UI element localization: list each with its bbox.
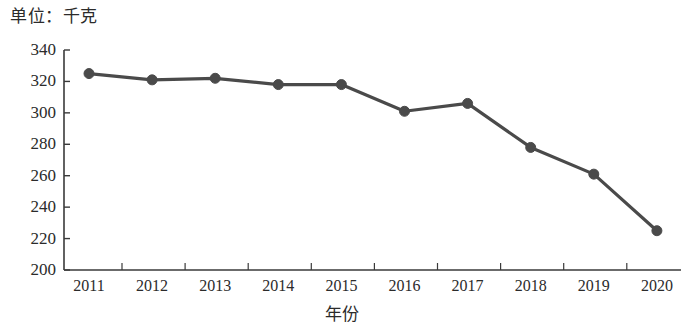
data-point-marker [147, 75, 157, 85]
line-chart: 单位：千克 200220240260280300320340 201120122… [0, 0, 683, 326]
x-tick-label: 2017 [452, 277, 484, 295]
data-series [84, 69, 662, 236]
data-point-marker [526, 142, 536, 152]
data-point-marker [400, 106, 410, 116]
x-tick-label: 2013 [199, 277, 231, 295]
data-point-marker [210, 73, 220, 83]
data-point-marker [273, 80, 283, 90]
x-tick-label: 2020 [641, 277, 673, 295]
x-tick-label: 2019 [578, 277, 610, 295]
x-tick-label: 2016 [389, 277, 421, 295]
x-tick-label: 2014 [262, 277, 294, 295]
x-tick-label: 2018 [515, 277, 547, 295]
x-axis-title: 年份 [0, 300, 683, 325]
x-tick-label: 2015 [325, 277, 357, 295]
data-point-marker [652, 226, 662, 236]
data-point-marker [589, 169, 599, 179]
x-tick-label: 2012 [136, 277, 168, 295]
data-point-marker [463, 98, 473, 108]
data-point-marker [84, 69, 94, 79]
x-tick-label: 2011 [73, 277, 104, 295]
data-point-marker [336, 80, 346, 90]
